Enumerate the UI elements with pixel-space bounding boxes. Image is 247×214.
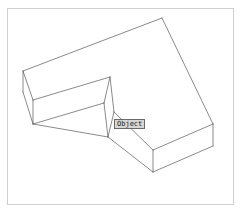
edge-bottom-left-end <box>23 92 33 124</box>
edge-top-inner-horizontal <box>110 77 114 112</box>
object-tooltip-label: Object <box>117 120 142 128</box>
edge-bottom-inner-lower <box>108 137 153 172</box>
edge-top-right-upper <box>162 18 213 124</box>
edge-notch-bottom-vertical <box>104 103 108 137</box>
wireframe-edges <box>23 18 213 172</box>
edge-top-right-lower <box>153 124 213 150</box>
edge-notch-front-bottom <box>33 103 104 124</box>
edge-bottom-right-lower <box>153 146 213 172</box>
object-wireframe[interactable] <box>0 0 247 214</box>
object-tooltip[interactable]: Object <box>114 119 145 129</box>
edge-top-back-left <box>23 18 162 71</box>
edge-top-inner-lower <box>114 112 153 150</box>
edge-notch-front-vertical <box>104 77 110 103</box>
drawing-canvas: Object <box>0 0 247 214</box>
edge-top-front-left <box>33 77 110 100</box>
edge-bottom-front-left <box>33 124 108 137</box>
